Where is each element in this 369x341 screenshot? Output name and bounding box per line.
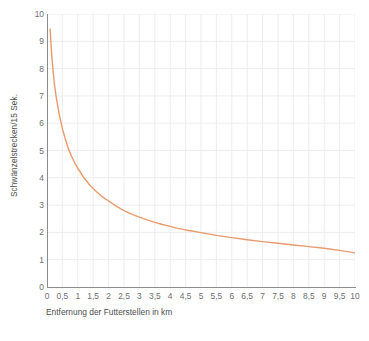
y-axis-tick-label: 3 [39,200,44,210]
y-axis-tick-label: 8 [39,64,44,74]
x-axis-tick-label: 8,5 [303,291,315,301]
y-axis-tick-label: 5 [39,146,44,156]
y-axis-tick-label: 7 [39,91,44,101]
y-axis-tick-label: 1 [39,255,44,265]
x-axis-tick-label: 2 [106,291,111,301]
x-axis-tick-label: 1,5 [87,291,99,301]
x-axis-line [47,287,356,288]
x-axis-tick-label: 5 [199,291,204,301]
x-axis-tick-label: 4,5 [180,291,192,301]
y-axis-line [47,14,48,288]
x-axis-tick-label: 3 [137,291,142,301]
x-axis-tick-labels: 00,511,522,533,544,555,566,577,588,599,5… [47,291,355,305]
chart-container: Schwänzelstrecken/15 Sek. 012345678910 0… [0,0,369,341]
x-axis-title: Entfernung der Futterstellen in km [46,307,172,317]
x-axis-tick-label: 9 [322,291,327,301]
x-axis-tick-label: 3,5 [149,291,161,301]
y-axis-tick-label: 6 [39,118,44,128]
x-axis-tick-label: 8 [291,291,296,301]
y-axis-tick-label: 9 [39,36,44,46]
y-axis-tick-label: 4 [39,173,44,183]
plot-area [47,14,355,287]
data-series-curve [47,14,355,287]
x-axis-tick-label: 0,5 [57,291,69,301]
x-axis-tick-label: 7,5 [272,291,284,301]
x-axis-tick-label: 0 [45,291,50,301]
x-axis-tick-label: 6 [229,291,234,301]
x-axis-tick-label: 2,5 [118,291,130,301]
y-axis-tick-label: 2 [39,227,44,237]
x-axis-tick-label: 7 [260,291,265,301]
x-axis-tick-label: 6,5 [241,291,253,301]
x-axis-tick-label: 9,5 [334,291,346,301]
x-axis-tick-label: 10 [350,291,359,301]
x-axis-tick-label: 4 [168,291,173,301]
y-axis-tick-label: 10 [35,9,44,19]
y-axis-title-text: Schwänzelstrecken/15 Sek. [11,93,20,196]
x-axis-tick-label: 1 [75,291,80,301]
y-axis-tick-label: 0 [39,282,44,292]
y-axis-tick-labels: 012345678910 [24,14,44,287]
x-axis-tick-label: 5,5 [211,291,223,301]
